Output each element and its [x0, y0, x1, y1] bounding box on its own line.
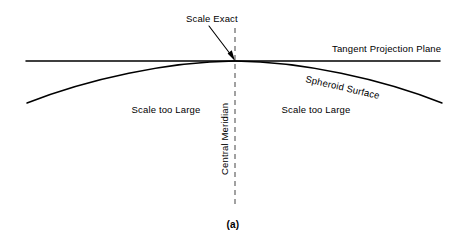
spheroid-surface-label: Spheroid Surface	[305, 73, 381, 101]
figure-caption: (a)	[227, 219, 240, 230]
scale-too-large-right-label: Scale too Large	[282, 104, 351, 115]
scale-exact-label: Scale Exact	[186, 13, 238, 24]
tangent-plane-diagram: Scale Exact Tangent Projection Plane Sph…	[0, 0, 467, 243]
scale-exact-leader-line	[209, 26, 231, 55]
central-meridian-label: Central Meridian	[219, 103, 230, 175]
tangent-projection-plane-label: Tangent Projection Plane	[332, 43, 441, 54]
figure-container: Scale Exact Tangent Projection Plane Sph…	[0, 0, 467, 243]
scale-too-large-left-label: Scale too Large	[132, 104, 201, 115]
